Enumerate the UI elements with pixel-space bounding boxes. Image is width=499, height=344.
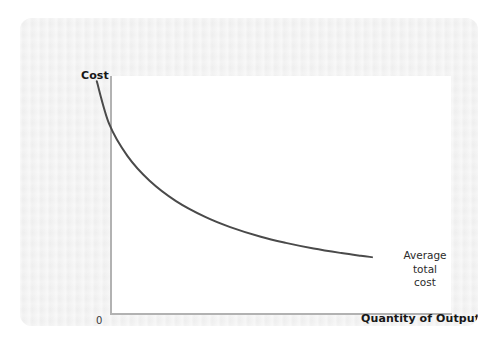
- average-total-cost-curve: [97, 81, 372, 257]
- average-total-cost-callout: Average total cost: [398, 249, 452, 290]
- callout-line-3: cost: [398, 276, 452, 290]
- callout-line-2: total: [398, 263, 452, 277]
- figure-card: Cost Quantity of Output 0 Average total …: [20, 18, 478, 326]
- callout-line-1: Average: [398, 249, 452, 263]
